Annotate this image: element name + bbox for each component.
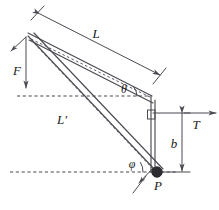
lower-member-end-tick [133, 176, 146, 193]
label-L-prime: L′ [56, 112, 67, 127]
label-T: T [192, 117, 200, 132]
force-F-guide-arrow [11, 37, 26, 51]
lower-member-edge-right [34, 33, 163, 169]
lower-member-edge-left [28, 36, 157, 172]
pivot-point-P [152, 167, 162, 177]
label-b: b [171, 136, 178, 151]
angle-phi-arc [141, 163, 144, 173]
label-P: P [153, 178, 162, 193]
label-F: F [12, 63, 22, 78]
dashed-chord-lower [31, 40, 154, 170]
label-L: L [91, 26, 99, 41]
label-theta: θ [121, 82, 127, 96]
dashed-chord-upper [31, 39, 152, 98]
dimension-L-line [40, 14, 160, 75]
free-body-diagram: L L′ F θ φ b T P [0, 0, 219, 210]
dimension-L-tick-start [31, 6, 44, 20]
label-phi: φ [129, 157, 136, 171]
dimension-L-tick-end [153, 68, 166, 84]
figure-canvas: L L′ F θ φ b T P [0, 0, 219, 210]
